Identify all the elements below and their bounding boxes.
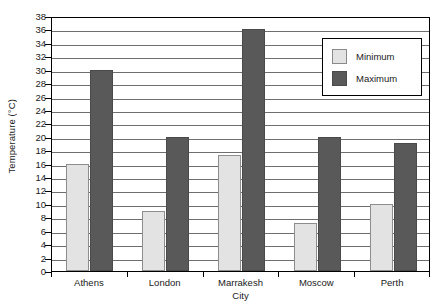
y-axis-tick-label: 16	[20, 160, 46, 170]
legend-swatch-maximum-icon	[332, 71, 347, 86]
legend-label-maximum: Maximum	[356, 73, 397, 84]
y-axis-tick-label: 10	[20, 200, 46, 210]
bar-perth-minimum	[370, 204, 393, 271]
bar-athens-maximum	[90, 70, 113, 271]
y-axis-tick-label: 4	[20, 240, 46, 250]
y-axis-tick-label: 6	[20, 227, 46, 237]
legend: Minimum Maximum	[322, 38, 422, 96]
x-axis-tick-label-moscow: Moscow	[299, 277, 334, 289]
y-axis-tick-label: 30	[20, 66, 46, 76]
y-axis-tick-label: 12	[20, 186, 46, 196]
y-axis-title: Temperature (°C)	[2, 0, 20, 272]
y-axis-tick-label: 26	[20, 93, 46, 103]
legend-label-minimum: Minimum	[356, 51, 395, 62]
y-axis-tick-labels: 02468101214161820222426283032343638	[20, 0, 46, 306]
x-axis-tick-labels: AthensLondonMarrakeshMoscowPerth	[51, 277, 430, 291]
x-axis-tick-label-perth: Perth	[381, 277, 404, 289]
legend-entry-minimum: Minimum	[332, 45, 421, 67]
y-axis-tick-label: 0	[20, 267, 46, 277]
y-axis-tick-label: 8	[20, 213, 46, 223]
legend-swatch-minimum-icon	[332, 49, 347, 64]
y-axis-tick-label: 24	[20, 106, 46, 116]
y-axis-tick-label: 28	[20, 79, 46, 89]
legend-entry-maximum: Maximum	[332, 67, 421, 89]
y-axis-tick-label: 20	[20, 133, 46, 143]
x-axis-tick-label-london: London	[149, 277, 181, 289]
y-axis-tick-label: 36	[20, 25, 46, 35]
y-axis-tick-label: 14	[20, 173, 46, 183]
y-axis-title-text: Temperature (°C)	[6, 99, 17, 174]
bar-athens-minimum	[66, 164, 89, 271]
y-axis-tick-label: 34	[20, 39, 46, 49]
y-axis-tick-label: 2	[20, 254, 46, 264]
y-axis-tick-label: 38	[20, 12, 46, 22]
x-axis-tick-label-marrakesh: Marrakesh	[218, 277, 263, 289]
bar-moscow-maximum	[318, 137, 341, 271]
y-axis-tick-label: 22	[20, 119, 46, 129]
bar-london-maximum	[166, 137, 189, 271]
bar-chart: Temperature (°C) 02468101214161820222426…	[0, 0, 447, 306]
bar-london-minimum	[142, 211, 165, 271]
x-axis-title: City	[51, 290, 430, 301]
x-axis-tick-label-athens: Athens	[74, 277, 104, 289]
y-axis-tick-label: 18	[20, 146, 46, 156]
y-axis-tick-label: 32	[20, 52, 46, 62]
bar-marrakesh-minimum	[218, 155, 241, 271]
bar-perth-maximum	[394, 143, 417, 271]
bar-moscow-minimum	[294, 223, 317, 271]
bar-marrakesh-maximum	[242, 29, 265, 271]
